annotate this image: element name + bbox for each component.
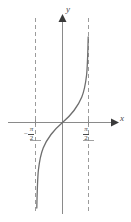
fraction-pi-over-2: π 2 (83, 126, 89, 143)
tangent-function-figure: y x − π 2 π 2 (0, 0, 131, 222)
fraction-numerator: π (83, 126, 89, 133)
fraction-denominator: 2 (29, 135, 35, 142)
fraction-denominator: 2 (83, 135, 89, 142)
x-axis-label: x (120, 114, 124, 123)
y-axis-arrowhead (59, 14, 67, 22)
y-axis-label: y (66, 5, 70, 14)
fraction-pi-over-2: π 2 (28, 126, 34, 143)
fraction-numerator: π (29, 126, 35, 133)
minus-sign: − (24, 131, 28, 138)
x-tick-label-pi-over-2: π 2 (83, 126, 89, 143)
plot-canvas (0, 0, 131, 222)
x-axis-arrowhead (111, 119, 119, 127)
x-tick-label-neg-pi-over-2: − π 2 (24, 126, 34, 143)
